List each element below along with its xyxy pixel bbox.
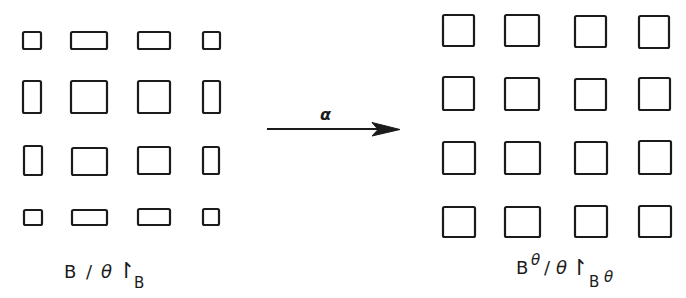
- right-grid-cell-r0-c3: [639, 16, 669, 48]
- right-grid-caption: B θ / θ ↾ B θ: [516, 251, 613, 291]
- left-grid-cell-r2-c3: [203, 147, 219, 174]
- left-grid-cell-r0-c2: [138, 32, 170, 49]
- left-grid-cell-r1-c0: [23, 81, 41, 113]
- right-grid-cell-r1-c0: [443, 77, 474, 110]
- right-caption-base: B: [516, 257, 528, 278]
- right-grid-cell-r1-c3: [639, 78, 670, 110]
- left-caption-subscript: B: [134, 274, 144, 292]
- right-grid-cell-r0-c0: [443, 15, 474, 46]
- right-grid-cell-r0-c1: [505, 15, 539, 46]
- right-grid-cell-r1-c2: [575, 79, 606, 110]
- right-grid-cell-r0-c2: [575, 16, 606, 47]
- diagram-canvas: α B / θ ↾ B B θ / θ ↾ B θ: [0, 0, 686, 298]
- left-grid-cell-r3-c3: [203, 209, 219, 225]
- left-grid-cell-r3-c1: [72, 210, 107, 225]
- right-grid-cell-r2-c3: [639, 141, 671, 174]
- right-grid-cell-r3-c1: [505, 207, 540, 237]
- left-grid-caption: B / θ ↾ B: [64, 258, 144, 292]
- left-grid-cell-r3-c0: [24, 210, 42, 225]
- left-caption-base: B: [64, 261, 76, 282]
- right-caption-subscript-theta: θ: [604, 268, 613, 286]
- left-lattice-grid: [23, 32, 220, 225]
- transformation-arrow: α: [267, 105, 400, 136]
- right-grid-cell-r3-c0: [443, 207, 475, 237]
- left-grid-cell-r1-c1: [71, 81, 107, 113]
- left-grid-cell-r0-c0: [23, 32, 41, 49]
- left-grid-cell-r1-c2: [138, 81, 170, 113]
- right-grid-cell-r2-c2: [575, 142, 607, 174]
- left-grid-cell-r2-c2: [138, 147, 170, 174]
- right-lattice-grid: [443, 15, 671, 237]
- left-grid-cell-r2-c1: [72, 148, 107, 175]
- right-grid-cell-r1-c1: [505, 78, 539, 110]
- right-grid-cell-r3-c2: [575, 206, 607, 237]
- left-grid-cell-r0-c3: [203, 32, 220, 49]
- right-grid-cell-r2-c0: [443, 142, 475, 174]
- right-caption-superscript: θ: [531, 251, 540, 269]
- right-caption-subscript: B: [589, 273, 599, 291]
- left-grid-cell-r1-c3: [203, 81, 220, 113]
- right-caption-restrict: ↾: [570, 255, 588, 280]
- left-caption-theta: θ: [101, 261, 112, 282]
- right-caption-theta: θ: [556, 257, 567, 278]
- right-grid-cell-r2-c1: [505, 142, 540, 174]
- left-caption-restrict: ↾: [117, 258, 135, 283]
- arrow-label-alpha: α: [320, 105, 332, 124]
- left-grid-cell-r0-c1: [71, 32, 107, 49]
- left-grid-cell-r2-c0: [24, 146, 42, 175]
- left-grid-cell-r3-c2: [138, 209, 170, 225]
- right-grid-cell-r3-c3: [639, 206, 671, 237]
- left-caption-slash: /: [86, 261, 93, 282]
- right-caption-slash: /: [544, 257, 551, 278]
